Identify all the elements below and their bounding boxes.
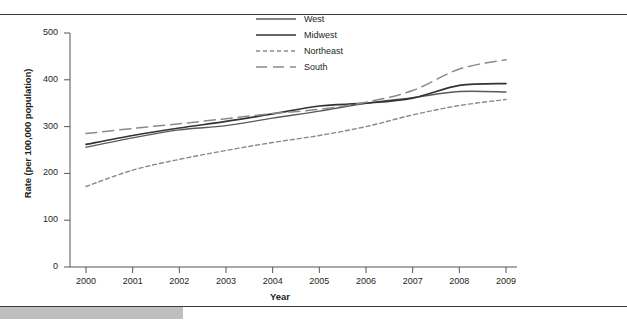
bottom-gray-bar — [0, 307, 183, 319]
legend-item-label: West — [304, 14, 324, 24]
legend-item-midwest[interactable]: Midwest — [255, 27, 343, 43]
legend-line-swatch — [255, 62, 297, 72]
x-tick-label: 2008 — [436, 276, 482, 286]
legend-item-west[interactable]: West — [255, 11, 343, 27]
x-tick-label: 2009 — [483, 276, 529, 286]
series-line-northeast — [86, 99, 506, 186]
x-tick-label: 2006 — [343, 276, 389, 286]
line-chart-figure: 0100200300400500 20002001200220032004200… — [0, 0, 627, 324]
x-tick-label: 2005 — [296, 276, 342, 286]
legend-item-northeast[interactable]: Northeast — [255, 43, 343, 59]
legend-line-swatch — [255, 30, 297, 40]
y-tick-label: 0 — [18, 261, 58, 271]
legend-item-label: South — [304, 62, 328, 72]
x-tick-label: 2001 — [110, 276, 156, 286]
x-axis-ticks — [86, 267, 506, 273]
legend-line-swatch — [255, 14, 297, 24]
y-axis-ticks — [64, 33, 70, 267]
data-series-group — [86, 60, 506, 187]
legend-item-label: Northeast — [304, 46, 343, 56]
x-tick-label: 2003 — [203, 276, 249, 286]
x-tick-label: 2000 — [63, 276, 109, 286]
x-tick-label: 2002 — [156, 276, 202, 286]
legend-line-swatch — [255, 46, 297, 56]
legend-item-label: Midwest — [304, 30, 337, 40]
y-axis-title: Rate (per 100,000 population) — [22, 19, 33, 249]
chart-legend: WestMidwestNortheastSouth — [255, 11, 343, 75]
x-tick-label: 2004 — [250, 276, 296, 286]
x-tick-label: 2007 — [390, 276, 436, 286]
legend-item-south[interactable]: South — [255, 59, 343, 75]
x-axis-title: Year — [0, 291, 560, 302]
series-line-west — [86, 91, 506, 147]
